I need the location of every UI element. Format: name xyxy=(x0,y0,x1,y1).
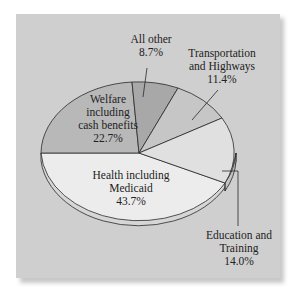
label-education-line2: Training xyxy=(202,242,276,255)
label-education: Education and Training 14.0% xyxy=(202,229,276,268)
label-all-other-value: 8.7% xyxy=(126,46,176,59)
label-transportation-line1: Transportation xyxy=(182,47,262,60)
label-all-other: All other 8.7% xyxy=(126,33,176,59)
label-welfare-line2: including xyxy=(72,106,144,119)
label-transportation-line2: and Highways xyxy=(182,60,262,73)
label-transportation: Transportation and Highways 11.4% xyxy=(182,47,262,86)
label-welfare-value: 22.7% xyxy=(72,132,144,145)
label-welfare-line3: cash benefits xyxy=(72,119,144,132)
label-welfare: Welfare including cash benefits 22.7% xyxy=(72,93,144,145)
label-health-value: 43.7% xyxy=(88,195,174,208)
label-health-line1: Health including xyxy=(88,169,174,182)
label-education-value: 14.0% xyxy=(202,255,276,268)
label-education-line1: Education and xyxy=(202,229,276,242)
label-health: Health including Medicaid 43.7% xyxy=(88,169,174,208)
label-health-line2: Medicaid xyxy=(88,182,174,195)
label-all-other-name: All other xyxy=(126,33,176,46)
label-welfare-line1: Welfare xyxy=(72,93,144,106)
label-transportation-value: 11.4% xyxy=(182,73,262,86)
